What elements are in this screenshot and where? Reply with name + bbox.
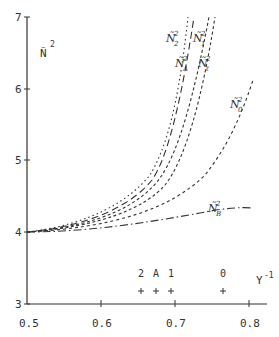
svg-text:2: 2	[173, 30, 179, 38]
x-tick-label: 0.6	[92, 317, 112, 330]
svg-text:B: B	[215, 210, 221, 218]
curve-label-nl: Ñ2ℓ	[197, 55, 211, 73]
curve-nA	[27, 17, 194, 232]
svg-text:ℓ: ℓ	[205, 65, 209, 73]
y-tick-label: 6	[15, 83, 22, 96]
marker-label: A	[153, 268, 159, 279]
svg-text:2: 2	[205, 55, 211, 63]
chart: 7 6 5 4 3 0.5 0.6 0.7 0.8 Ñ 2 Y -1 Ñ22 Ñ…	[0, 0, 279, 337]
marker-label: 2	[138, 268, 144, 279]
svg-text:0: 0	[238, 106, 243, 114]
svg-text:2: 2	[182, 55, 188, 63]
svg-text:2: 2	[200, 30, 206, 38]
curve-n1	[27, 17, 209, 232]
svg-text:1: 1	[201, 40, 205, 48]
y-tick-label: 5	[15, 154, 22, 167]
svg-text:2: 2	[237, 96, 243, 104]
curve-n2	[27, 17, 188, 232]
curve-label-nB: Ñ2B	[207, 200, 221, 218]
x-axis-label: Y	[256, 274, 263, 287]
svg-text:2: 2	[173, 40, 179, 48]
curve-label-n2: Ñ22	[165, 30, 179, 48]
svg-text:A: A	[182, 65, 188, 73]
x-tick-label: 0.8	[240, 317, 260, 330]
y-axis-label-sup: 2	[50, 40, 55, 49]
x-tick-label: 0.5	[19, 317, 39, 330]
y-tick-label: 3	[15, 298, 22, 311]
y-tick-label: 4	[15, 226, 22, 239]
marker-crosses	[138, 288, 226, 294]
curve-nl	[27, 17, 215, 232]
y-tick-label: 7	[15, 11, 22, 24]
marker-label: 0	[220, 268, 226, 279]
x-axis-label-sup: -1	[264, 271, 274, 280]
curve-label-n0: Ñ20	[229, 96, 243, 114]
marker-label: 1	[168, 268, 174, 279]
svg-text:2: 2	[215, 200, 221, 208]
curve-label-n1: Ñ21	[192, 30, 206, 48]
y-axis-label: Ñ	[40, 47, 47, 60]
x-tick-label: 0.7	[166, 317, 186, 330]
